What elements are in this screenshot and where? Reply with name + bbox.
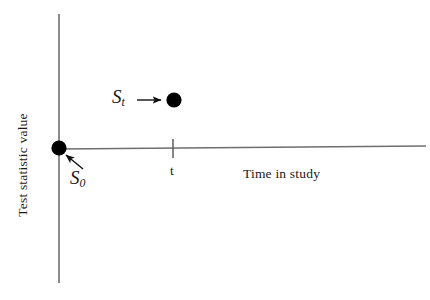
x-axis-label: Time in study bbox=[243, 167, 320, 181]
origin-statistic-marker bbox=[51, 140, 66, 155]
s0-label-base: S bbox=[70, 167, 80, 188]
st-label-subscript: t bbox=[122, 96, 125, 109]
time-t-statistic-marker bbox=[166, 92, 181, 107]
s0-marker-label: S0 bbox=[70, 168, 85, 190]
statistic-vs-time-figure: Test statistic value Time in study t S0 … bbox=[0, 0, 430, 300]
st-marker-label: St bbox=[112, 87, 125, 109]
figure-canvas bbox=[0, 0, 430, 300]
x-axis-tick-label-t: t bbox=[170, 164, 174, 178]
x-axis-line bbox=[59, 146, 426, 149]
y-axis-label: Test statistic value bbox=[16, 113, 30, 217]
s0-label-subscript: 0 bbox=[80, 177, 86, 190]
st-label-base: S bbox=[112, 86, 122, 107]
